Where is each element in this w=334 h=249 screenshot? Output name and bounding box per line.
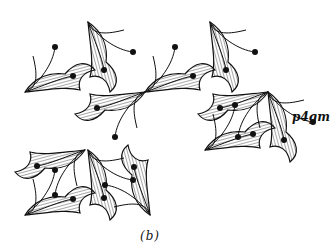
tile-pattern	[15, 22, 316, 220]
figure-caption: (b)	[140, 229, 160, 243]
symmetry-group-label: p4gm	[292, 110, 330, 124]
tessellation-diagram	[0, 0, 334, 249]
